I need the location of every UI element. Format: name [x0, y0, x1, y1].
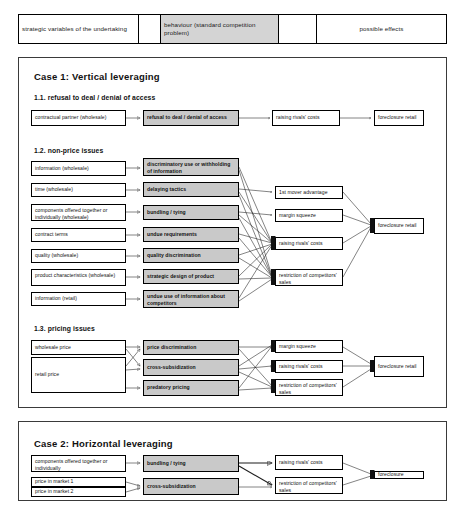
box-variable-retail-price[interactable]: retail price	[31, 357, 126, 393]
box-variable-contract-terms[interactable]: contract terms	[31, 228, 126, 242]
box-behaviour-quality-discrimination[interactable]: quality discrimination	[143, 248, 239, 263]
legend-label-behaviour: behaviour (standard competition problem)	[164, 21, 275, 38]
box-variable-product-characteristics-wholesale[interactable]: product characteristics (wholesale)	[31, 269, 126, 286]
box-behaviour-bundling-tying-12[interactable]: bundling / tying	[143, 205, 239, 220]
legend-cell-spacer-2	[279, 15, 317, 43]
section-1-2-title: 1.2. non-price issues	[34, 147, 103, 154]
box-effect-raising-rivals-costs-13[interactable]: raising rivals' costs	[275, 360, 343, 373]
section-1-1-title: 1.1. refusal to deal / denial of access	[34, 94, 155, 101]
box-variable-information-retail[interactable]: information (retail)	[31, 292, 126, 306]
box-behaviour-cross-subsidization-13[interactable]: cross-subsidization	[143, 359, 239, 376]
box-effect-margin-squeeze-13[interactable]: margin squeeze	[275, 340, 343, 353]
box-variable-quality-wholesale[interactable]: quality (wholesale)	[31, 249, 126, 263]
box-outcome-foreclosure-retail-13[interactable]: foreclosure retail	[374, 356, 424, 377]
legend-cell-spacer-1	[139, 15, 161, 43]
box-effect-raising-rivals-costs-11[interactable]: raising rivals' costs	[272, 110, 340, 126]
box-variable-time-wholesale[interactable]: time (wholesale)	[31, 183, 126, 197]
box-effect-1st-mover-advantage[interactable]: 1st mover advantage	[275, 186, 343, 199]
box-variable-contractual-partner[interactable]: contractual partner (wholesale)	[31, 110, 126, 126]
box-variable-components-offered-case2[interactable]: components offered together or individua…	[31, 455, 126, 472]
section-1-3-title: 1.3. pricing issues	[34, 325, 95, 332]
diagram-page: strategic variables of the undertaking b…	[0, 0, 465, 513]
legend-cell-possible-effects: possible effects	[317, 15, 446, 43]
box-effect-restriction-of-competitors-sales-case2[interactable]: restriction of competitors' sales	[275, 477, 343, 494]
case1-title: Case 1: Vertical leveraging	[34, 71, 160, 82]
box-outcome-foreclosure-retail-12[interactable]: foreclosure retail	[374, 218, 424, 234]
box-behaviour-strategic-design-of-product[interactable]: strategic design of product	[143, 269, 239, 284]
box-variable-wholesale-price[interactable]: wholesale price	[31, 340, 126, 355]
box-effect-margin-squeeze-12[interactable]: margin squeeze	[275, 209, 343, 222]
box-outcome-foreclosure-case2[interactable]: foreclosure	[374, 471, 424, 479]
box-effect-raising-rivals-costs-case2[interactable]: raising rivals' costs	[275, 455, 343, 470]
box-behaviour-bundling-tying-case2[interactable]: bundling / tying	[143, 455, 239, 472]
box-behaviour-undue-requirements[interactable]: undue requirements	[143, 227, 239, 242]
box-variable-price-in-market-1[interactable]: price in market 1	[31, 477, 126, 487]
legend-table: strategic variables of the undertaking b…	[18, 14, 447, 44]
box-behaviour-predatory-pricing[interactable]: predatory pricing	[143, 380, 239, 396]
box-variable-components-offered-wholesale[interactable]: components offered together or individua…	[31, 204, 126, 221]
case2-title: Case 2: Horizontal leveraging	[34, 438, 173, 449]
box-behaviour-discriminatory-use-of-information[interactable]: discriminatory use or withholding of inf…	[143, 158, 239, 176]
box-behaviour-undue-use-of-information-about-competitors[interactable]: undue use of information about competito…	[143, 290, 239, 308]
box-behaviour-price-discrimination[interactable]: price discrimination	[143, 340, 239, 355]
box-behaviour-delaying-tactics[interactable]: delaying tactics	[143, 182, 239, 197]
box-outcome-foreclosure-retail-11[interactable]: foreclosure retail	[374, 110, 424, 126]
legend-cell-strategic-variables: strategic variables of the undertaking	[19, 15, 139, 43]
box-variable-price-in-market-2[interactable]: price in market 2	[31, 487, 126, 497]
legend-cell-behaviour: behaviour (standard competition problem)	[161, 15, 279, 43]
box-effect-restriction-of-competitors-sales-12[interactable]: restriction of competitors' sales	[275, 269, 343, 286]
box-effect-raising-rivals-costs-12[interactable]: raising rivals' costs	[275, 237, 343, 250]
legend-label-possible-effects: possible effects	[359, 25, 403, 33]
box-effect-restriction-of-competitors-sales-13[interactable]: restriction of competitors' sales	[275, 379, 343, 396]
box-behaviour-cross-subsidization-case2[interactable]: cross-subsidization	[143, 478, 239, 495]
box-variable-information-wholesale[interactable]: information (wholesale)	[31, 161, 126, 176]
box-behaviour-refusal-to-deal[interactable]: refusal to deal / denial of access	[143, 110, 239, 126]
legend-label-strategic-variables: strategic variables of the undertaking	[22, 25, 127, 33]
